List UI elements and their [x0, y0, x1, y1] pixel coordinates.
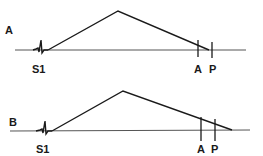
panel-a-s1-spike: [33, 40, 48, 53]
panel-a-p2-label: P: [209, 63, 216, 75]
panel-b-p2-label: P: [211, 143, 218, 155]
panel-a-a2-label: A: [194, 63, 202, 75]
panel-b-s1-label: S1: [36, 143, 49, 155]
panel-a-s1-label: S1: [32, 63, 45, 75]
panel-b-s1-spike: [36, 121, 52, 134]
panel-b-a2-label: A: [197, 143, 205, 155]
panel-b-label: B: [9, 116, 17, 128]
panel-a-label: A: [5, 24, 13, 36]
phonocardiogram-diagram: A S1 A P B S1 A P: [0, 0, 263, 156]
panel-b: B S1 A P: [9, 91, 250, 155]
panel-a: A S1 A P: [5, 11, 246, 75]
panel-b-murmur-envelope: [52, 91, 232, 131]
panel-a-murmur-envelope: [48, 11, 209, 50]
